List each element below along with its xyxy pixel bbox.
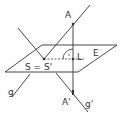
label-a-prime: A' [62,97,71,107]
right-angle-dot [68,54,69,55]
point-a-prime [72,90,74,95]
label-g: g [8,87,14,97]
projection-diagram: A L E S = S' g A' g' [0,0,122,127]
point-a [72,23,75,26]
label-a: A [65,10,72,20]
point-l [72,58,75,61]
line-g-prime-upper [18,28,44,59]
line-g-lower [12,74,30,97]
label-l: L [77,52,82,62]
point-s [43,58,46,61]
right-angle-arc [63,49,73,59]
label-s: S = S' [25,62,52,72]
plane-e [5,45,117,72]
label-e: E [93,48,99,58]
label-g-prime: g' [85,99,93,109]
